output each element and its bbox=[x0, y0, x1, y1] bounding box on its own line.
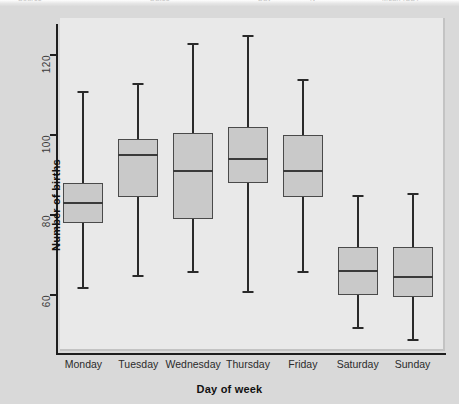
x-axis-tick-label-thursday: Thursday bbox=[226, 358, 270, 370]
x-axis-tick-label-monday: Monday bbox=[65, 358, 102, 370]
upper-whisker-cap bbox=[407, 193, 418, 195]
x-axis-title: Day of week bbox=[0, 383, 459, 395]
upper-whisker bbox=[412, 193, 414, 247]
lower-whisker bbox=[412, 297, 414, 339]
page-top-text-fragment: N bbox=[310, 0, 315, 1]
median-line bbox=[393, 276, 433, 278]
page-top-text-fragment: Dates bbox=[150, 0, 170, 1]
page-top-text-fragment: Mean (SD) bbox=[382, 0, 419, 1]
iqr-box bbox=[393, 247, 433, 297]
x-axis-tick-label-tuesday: Tuesday bbox=[118, 358, 158, 370]
page-top-text-fragment: Source bbox=[18, 0, 42, 1]
x-axis-tick-label-saturday: Saturday bbox=[337, 358, 379, 370]
figure-container: 6080100120 MondayTuesdayWednesdayThursda… bbox=[0, 6, 459, 404]
x-axis-tick-label-wednesday: Wednesday bbox=[166, 358, 221, 370]
x-axis-tick-label-friday: Friday bbox=[288, 358, 317, 370]
lower-whisker-cap bbox=[407, 339, 418, 341]
x-axis-tick-label-sunday: Sunday bbox=[395, 358, 431, 370]
box-plot-sunday[interactable] bbox=[0, 6, 459, 404]
page-top-text-fragment: Day bbox=[258, 0, 271, 1]
y-axis-title: Number of births bbox=[50, 159, 62, 251]
